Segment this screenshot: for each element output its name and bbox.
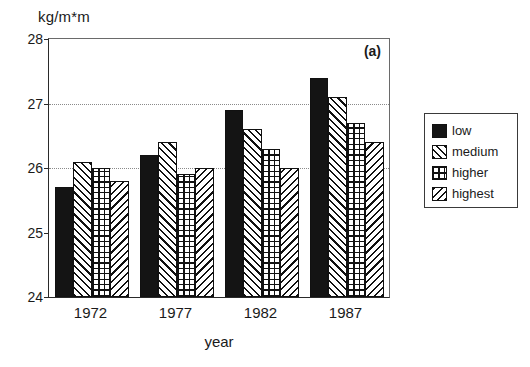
bar-1982-higher [262,149,281,297]
y-tick-mark-26 [44,168,49,169]
legend-swatch-higher-icon [432,166,447,180]
bar-1987-highest [365,142,384,297]
x-tick-label-1982: 1982 [244,304,277,321]
bar-1982-low [225,110,244,297]
y-tick-label-26: 26 [27,160,43,176]
legend: low medium higher highest [424,113,518,208]
legend-label-medium: medium [452,144,498,159]
bar-1982-medium [243,129,262,297]
bar-1982-highest [280,168,299,297]
bar-1987-low [310,78,329,297]
y-tick-label-28: 28 [27,31,43,47]
bar-1977-highest [195,168,214,297]
y-tick-mark-24 [44,297,49,298]
legend-item-highest: highest [432,183,517,204]
bar-1972-highest [110,181,129,297]
y-tick-mark-27 [44,104,49,105]
y-tick-mark-25 [44,233,49,234]
legend-item-low: low [432,120,517,141]
bar-1987-medium [328,97,347,297]
x-tick-label-1972: 1972 [74,304,107,321]
y-axis-title: kg/m*m [38,8,90,25]
legend-swatch-highest-icon [432,187,447,201]
legend-label-highest: highest [452,186,494,201]
legend-label-higher: higher [452,165,488,180]
legend-swatch-low-icon [432,124,447,138]
bar-1972-higher [92,168,111,297]
legend-item-medium: medium [432,141,517,162]
x-tick-label-1977: 1977 [159,304,192,321]
legend-label-low: low [452,123,472,138]
bar-1972-low [55,187,74,297]
plot-area: (a) 2425262728 [48,38,390,298]
x-tick-label-1987: 1987 [329,304,362,321]
plot-inner: 2425262728 [49,39,389,297]
y-tick-label-24: 24 [27,289,43,305]
y-tick-label-27: 27 [27,96,43,112]
bar-1972-medium [73,162,92,297]
legend-item-higher: higher [432,162,517,183]
y-tick-label-25: 25 [27,225,43,241]
chart-figure: kg/m*m (a) 2425262728 year low medium hi… [0,0,530,367]
bar-1977-medium [158,142,177,297]
bar-1977-low [140,155,159,297]
bar-1977-higher [177,174,196,297]
legend-swatch-medium-icon [432,145,447,159]
y-tick-mark-28 [44,39,49,40]
x-axis-title: year [48,333,390,350]
bar-1987-higher [347,123,366,297]
